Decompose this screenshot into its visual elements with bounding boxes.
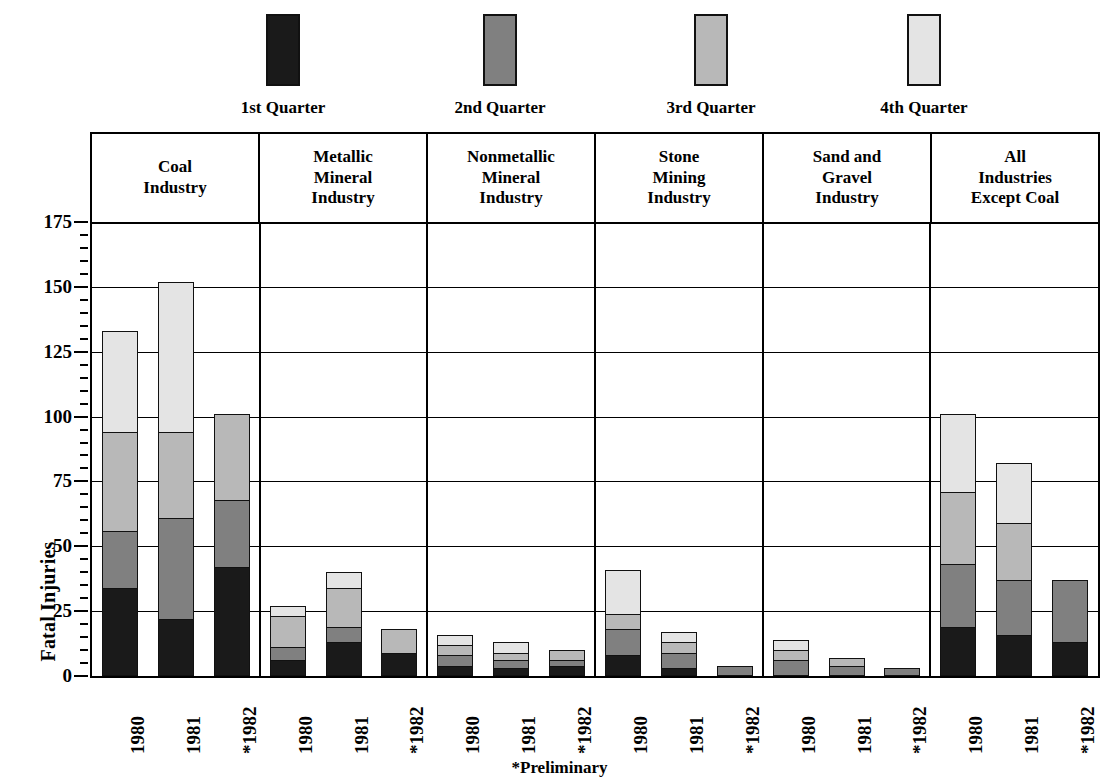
bar-segment-q3: [661, 642, 697, 652]
y-tick-label-175: 175: [44, 211, 73, 233]
industry-header-line: Coal: [158, 157, 192, 178]
y-tick-minor: [80, 325, 88, 327]
y-tick-minor: [80, 597, 88, 599]
group-separator-4: [762, 222, 764, 676]
bar-segment-q1: [270, 660, 306, 676]
bar-segment-q1: [549, 666, 585, 676]
bar-3-1980[interactable]: [437, 635, 473, 677]
x-tick-label: 1981: [351, 716, 373, 754]
y-tick-minor: [80, 636, 88, 638]
bar-3-p1982[interactable]: [549, 650, 585, 676]
y-tick-minor: [80, 467, 88, 469]
y-tick-label-100: 100: [44, 406, 73, 428]
legend-item-1[interactable]: 1st Quarter: [213, 14, 353, 118]
y-tick-minor: [80, 649, 88, 651]
bar-segment-q2: [326, 627, 362, 643]
legend-label-q1: 1st Quarter: [213, 98, 353, 118]
bar-segment-q4: [493, 642, 529, 652]
bar-segment-q4: [270, 606, 306, 616]
industry-header-line: Industry: [479, 188, 542, 209]
y-tick-minor: [80, 234, 88, 236]
industry-header-3: NonmetallicMineralIndustry: [428, 134, 596, 222]
y-tick-label-0: 0: [63, 665, 73, 687]
bar-segment-q2: [493, 660, 529, 668]
bar-6-p1982[interactable]: [1052, 580, 1088, 676]
y-tick-minor: [80, 273, 88, 275]
legend-item-4[interactable]: 4th Quarter: [854, 14, 994, 118]
bar-4-p1982[interactable]: [717, 666, 753, 676]
y-axis: Fatal Injuries 0255075100125150175: [0, 222, 90, 678]
x-axis-labels: 19801981*198219801981*198219801981*19821…: [90, 680, 1100, 758]
bar-2-p1982[interactable]: [381, 629, 417, 676]
industry-header-line: Industries: [978, 168, 1052, 189]
industry-header-band: CoalIndustryMetallicMineralIndustryNonme…: [90, 132, 1100, 224]
industry-header-line: Mineral: [314, 168, 373, 189]
bar-segment-q2: [158, 518, 194, 619]
bar-6-1980[interactable]: [940, 414, 976, 676]
industry-header-line: Metallic: [313, 147, 372, 168]
y-tick-minor: [80, 312, 88, 314]
y-tick-minor: [80, 558, 88, 560]
legend-item-3[interactable]: 3rd Quarter: [641, 14, 781, 118]
y-tick-minor: [80, 584, 88, 586]
bar-segment-q2: [717, 666, 753, 676]
legend-swatch-q1: [266, 14, 300, 86]
y-tick-minor: [80, 623, 88, 625]
bar-segment-q2: [884, 668, 920, 676]
bar-segment-q2: [437, 655, 473, 665]
bar-1-p1982[interactable]: [214, 414, 250, 676]
legend-label-q3: 3rd Quarter: [641, 98, 781, 118]
x-tick-label: *1982: [1077, 707, 1099, 755]
bar-1-1980[interactable]: [102, 331, 138, 676]
y-tick-minor: [80, 506, 88, 508]
bar-6-1981[interactable]: [996, 463, 1032, 676]
x-tick-label: 1980: [127, 716, 149, 754]
bar-segment-q1: [381, 653, 417, 676]
legend-swatch-q3: [694, 14, 728, 86]
y-tick-major-100: [74, 416, 88, 418]
bar-segment-q2: [1052, 580, 1088, 642]
bar-3-1981[interactable]: [493, 642, 529, 676]
bar-5-1981[interactable]: [829, 658, 865, 676]
bar-segment-q1: [326, 642, 362, 676]
bar-segment-q1: [661, 668, 697, 676]
bar-segment-q1: [437, 666, 473, 676]
y-tick-minor: [80, 338, 88, 340]
y-tick-minor: [80, 403, 88, 405]
legend-label-q2: 2nd Quarter: [430, 98, 570, 118]
industry-header-4: StoneMiningIndustry: [596, 134, 764, 222]
bar-segment-q3: [940, 492, 976, 565]
industry-header-line: Industry: [815, 188, 878, 209]
legend-item-2[interactable]: 2nd Quarter: [430, 14, 570, 118]
bar-1-1981[interactable]: [158, 282, 194, 676]
bar-segment-q3: [158, 432, 194, 518]
bar-segment-q2: [270, 647, 306, 660]
industry-header-5: Sand andGravelIndustry: [764, 134, 932, 222]
group-separator-2: [426, 222, 428, 676]
industry-header-1: CoalIndustry: [92, 134, 260, 222]
x-tick-label: 1981: [183, 716, 205, 754]
industry-header-line: Sand and: [813, 147, 882, 168]
plot-area: [90, 222, 1100, 678]
y-tick-minor: [80, 493, 88, 495]
y-tick-minor: [80, 519, 88, 521]
y-tick-major-25: [74, 610, 88, 612]
bar-5-p1982[interactable]: [884, 668, 920, 676]
bar-segment-q3: [326, 588, 362, 627]
bar-5-1980[interactable]: [773, 640, 809, 676]
bar-4-1980[interactable]: [605, 570, 641, 676]
legend-swatch-q2: [483, 14, 517, 86]
bar-segment-q4: [102, 331, 138, 432]
bar-segment-q1: [158, 619, 194, 676]
bar-4-1981[interactable]: [661, 632, 697, 676]
bar-2-1981[interactable]: [326, 572, 362, 676]
x-tick-label: 1980: [295, 716, 317, 754]
bar-segment-q4: [661, 632, 697, 642]
industry-header-line: Mining: [653, 168, 706, 189]
bar-segment-q2: [605, 629, 641, 655]
group-separator-3: [594, 222, 596, 676]
x-tick-label: 1981: [686, 716, 708, 754]
bar-segment-q2: [661, 653, 697, 669]
bar-2-1980[interactable]: [270, 606, 306, 676]
y-tick-minor: [80, 299, 88, 301]
